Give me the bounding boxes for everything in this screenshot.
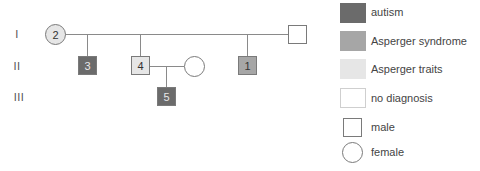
individual-gen-i-male — [288, 25, 307, 44]
individual-label: 5 — [163, 91, 169, 103]
individual-4-male: 4 — [131, 56, 150, 75]
legend-male-square-icon — [343, 118, 362, 137]
legend-label-autism: autism — [371, 6, 403, 18]
individual-label: 2 — [52, 29, 58, 41]
legend-swatch-no-diagnosis — [340, 88, 366, 108]
individual-1-male: 1 — [238, 56, 257, 75]
individual-label: 4 — [137, 60, 143, 72]
legend-swatch-asperger-traits — [340, 59, 366, 79]
generation-label-ii: II — [13, 60, 20, 72]
legend-label-no-diagnosis: no diagnosis — [371, 92, 433, 104]
legend-label-male: male — [371, 121, 395, 133]
individual-2-female: 2 — [45, 24, 66, 45]
marriage-line-gen-i — [65, 34, 288, 35]
legend-swatch-autism — [340, 3, 366, 23]
individual-5-male: 5 — [157, 87, 176, 106]
descent-line-5 — [166, 66, 167, 87]
generation-label-i: I — [15, 28, 19, 40]
descent-line-4 — [140, 34, 141, 56]
generation-label-iii: III — [14, 91, 25, 103]
pedigree-diagram: I II III 2 3 4 1 5 autism Asperger syndr — [0, 0, 480, 171]
legend-label-asperger-traits: Asperger traits — [371, 63, 443, 75]
individual-gen-ii-spouse-female — [184, 56, 205, 77]
individual-label: 3 — [84, 60, 90, 72]
individual-3-male: 3 — [78, 56, 97, 75]
legend-label-female: female — [371, 146, 404, 158]
descent-line-1 — [247, 34, 248, 56]
legend-female-circle-icon — [342, 142, 363, 163]
legend-label-asperger-syndrome: Asperger syndrome — [371, 35, 467, 47]
legend-swatch-asperger-syndrome — [340, 31, 366, 51]
individual-label: 1 — [244, 60, 250, 72]
descent-line-3 — [87, 34, 88, 56]
